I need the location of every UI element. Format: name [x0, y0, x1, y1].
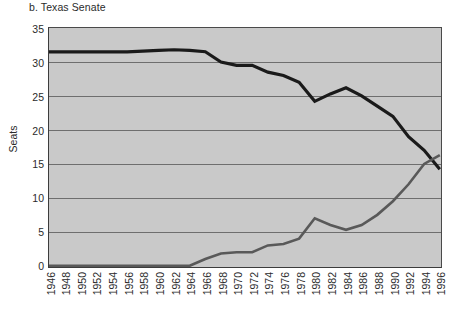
- chart-figure: b. Texas Senate Seats 05101520253035 194…: [0, 0, 456, 309]
- x-tick-label: 1970: [233, 272, 244, 295]
- x-tick-label: 1946: [46, 272, 57, 295]
- x-tick-label: 1976: [280, 272, 291, 295]
- x-tick-label: 1954: [108, 272, 119, 295]
- x-tick-label: 1948: [61, 272, 72, 295]
- x-tick-label: 1966: [202, 272, 213, 295]
- x-tick-label: 1964: [186, 272, 197, 295]
- x-tick-label: 1962: [171, 272, 182, 295]
- x-tick-label: 1958: [139, 272, 150, 295]
- x-tick-label: 1986: [358, 272, 369, 295]
- x-tick-label: 1952: [92, 272, 103, 295]
- x-tick-label: 1996: [436, 272, 447, 295]
- x-tick-label: 1992: [405, 272, 416, 295]
- x-tick-label: 1984: [343, 272, 354, 295]
- x-tick-label: 1982: [327, 272, 338, 295]
- x-tick-label: 1972: [249, 272, 260, 295]
- x-tick-label: 1988: [374, 272, 385, 295]
- x-tick-label: 1950: [77, 272, 88, 295]
- x-tick-label: 1980: [311, 272, 322, 295]
- x-tick-label: 1974: [264, 272, 275, 295]
- x-tick-label: 1978: [296, 272, 307, 295]
- x-tick-label: 1990: [390, 272, 401, 295]
- x-axis-tick-labels: 1946194819501952195419561958196019621964…: [0, 0, 456, 309]
- x-tick-label: 1994: [421, 272, 432, 295]
- x-tick-label: 1968: [218, 272, 229, 295]
- x-tick-label: 1960: [155, 272, 166, 295]
- x-tick-label: 1956: [124, 272, 135, 295]
